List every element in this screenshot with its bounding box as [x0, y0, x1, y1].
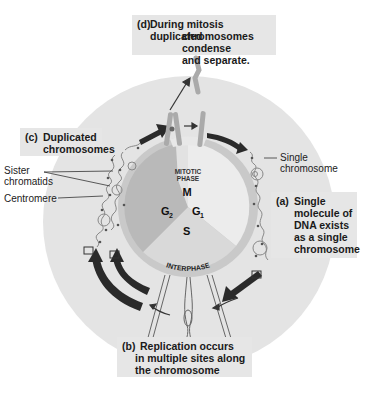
- callout-a-line: molecule of: [294, 207, 360, 219]
- callout-a-tag: (a): [276, 195, 289, 207]
- callout-a-line: chromosome: [294, 243, 360, 255]
- mitotic-label-2: PHASE: [177, 175, 200, 182]
- callout-c-line: Duplicated: [43, 131, 115, 143]
- callout-b-line: Replication occurs: [140, 340, 234, 352]
- phase-s: S: [183, 225, 190, 237]
- sister-chromatids-label: Sister chromatids: [4, 165, 53, 187]
- callout-d-line: and separate.: [182, 54, 276, 66]
- centromere-label: Centromere: [4, 193, 57, 204]
- callout-a-line: DNA exists: [294, 219, 360, 231]
- callout-c-line: chromosomes: [43, 143, 115, 155]
- cycle-pie: [124, 143, 249, 269]
- callout-d-tag: (d): [137, 18, 150, 30]
- cell-cycle-diagram: MITOTIC PHASE M G 2 G 1 S INTERPHASE: [0, 0, 377, 393]
- callout-a: (a) Single molecule of DNA exists as a s…: [271, 192, 357, 258]
- callout-b: (b) Replication occurs in multiple sites…: [117, 337, 252, 377]
- callout-c-tag: (c): [25, 131, 38, 143]
- callout-b-line: the chromosome: [135, 364, 245, 376]
- callout-d: (d) During mitosis duplicated chromosome…: [132, 15, 276, 55]
- callout-b-tag: (b): [122, 340, 135, 352]
- callout-a-line: Single: [294, 195, 360, 207]
- callout-c: (c) Duplicated chromosomes: [20, 128, 102, 156]
- phase-g2-sub: 2: [169, 212, 173, 219]
- phase-g1-sub: 1: [200, 212, 204, 219]
- callout-d-line: chromosomes condense: [182, 30, 276, 54]
- callout-b-line: in multiple sites along: [135, 352, 245, 364]
- callout-a-line: as a single: [294, 231, 360, 243]
- mitotic-label-1: MITOTIC: [175, 168, 202, 175]
- single-chromosome-label: Single chromosome: [280, 152, 338, 174]
- phase-m: M: [182, 186, 191, 198]
